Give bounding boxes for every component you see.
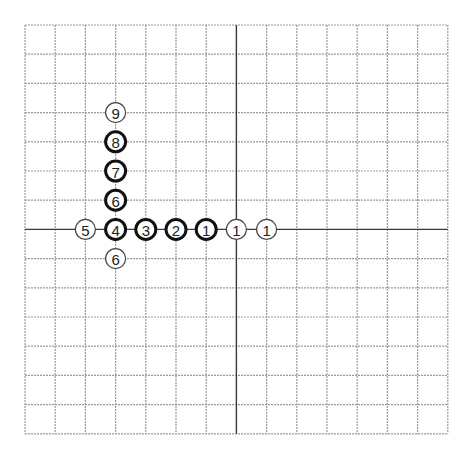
stone-thin-6: 6 [106,249,126,269]
stone-label: 3 [142,222,150,239]
stone-thick-7: 7 [106,161,126,181]
stone-label: 1 [232,222,240,239]
stone-label: 1 [202,222,210,239]
stone-label: 9 [111,105,119,122]
stone-thick-1: 1 [196,219,216,239]
stone-thin-5: 5 [75,219,95,239]
stone-thin-1: 1 [257,219,277,239]
stone-label: 7 [111,164,119,181]
grid-board: 543211198766 [0,0,470,454]
stone-thick-8: 8 [106,132,126,152]
stone-label: 8 [111,134,119,151]
stone-thick-3: 3 [136,219,156,239]
stone-label: 6 [111,193,119,210]
stone-thick-6: 6 [106,190,126,210]
stone-thin-1: 1 [226,219,246,239]
stone-label: 1 [262,222,270,239]
stone-thick-4: 4 [106,219,126,239]
stone-label: 6 [111,251,119,268]
stone-label: 5 [81,222,89,239]
stone-label: 2 [172,222,180,239]
stone-label: 4 [111,222,119,239]
stone-thick-2: 2 [166,219,186,239]
stone-thin-9: 9 [106,103,126,123]
